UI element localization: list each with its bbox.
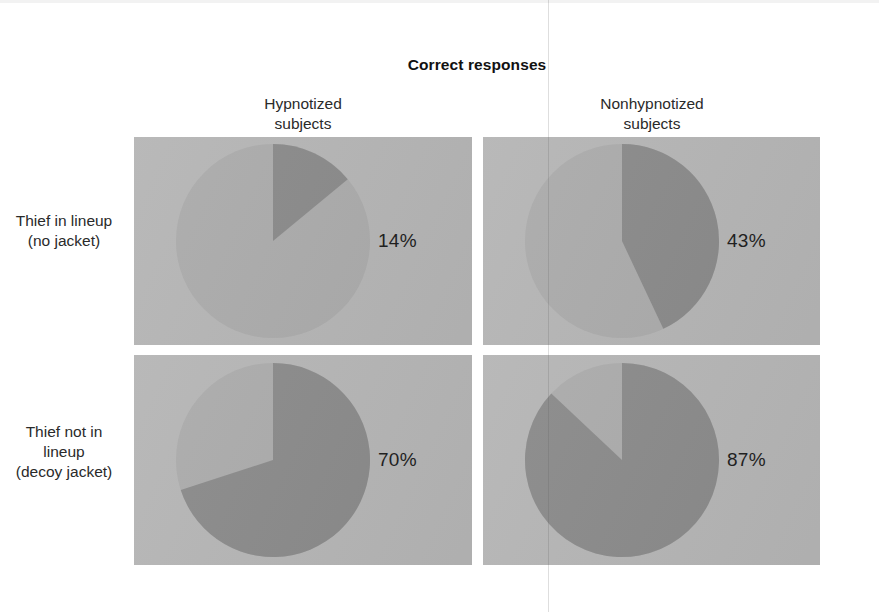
row-label-line1: Thief not in xyxy=(0,422,128,442)
pie-svg xyxy=(523,361,721,559)
row-label-thief-not-in-lineup: Thief not in lineup (decoy jacket) xyxy=(0,422,128,482)
pie-svg xyxy=(523,142,721,340)
column-header-line1: Hypnotized xyxy=(134,94,472,114)
pie-panel-hypnotized-thief-in-lineup: 14% xyxy=(134,137,472,345)
figure-canvas: Correct responses Hypnotized subjects No… xyxy=(0,0,879,612)
row-label-thief-in-lineup: Thief in lineup (no jacket) xyxy=(0,211,128,251)
pie-panel-nonhypnotized-thief-not-in-lineup: 87% xyxy=(483,355,820,565)
percent-label: 70% xyxy=(378,449,464,471)
row-label-line1: Thief in lineup xyxy=(0,211,128,231)
column-header-line2: subjects xyxy=(134,114,472,134)
percent-label: 14% xyxy=(378,230,464,252)
row-label-line3: (decoy jacket) xyxy=(0,462,128,482)
pie-chart xyxy=(523,361,721,559)
row-label-line2: (no jacket) xyxy=(0,231,128,251)
scan-artifact-edge xyxy=(0,0,879,3)
page-title: Correct responses xyxy=(134,56,820,74)
pie-panel-hypnotized-thief-not-in-lineup: 70% xyxy=(134,355,472,565)
row-label-line2: lineup xyxy=(0,442,128,462)
pie-svg xyxy=(174,361,372,559)
percent-label: 43% xyxy=(727,230,813,252)
pie-chart xyxy=(174,142,372,340)
pie-chart xyxy=(523,142,721,340)
pie-chart xyxy=(174,361,372,559)
percent-label: 87% xyxy=(727,449,813,471)
pie-svg xyxy=(174,142,372,340)
column-header-line1: Nonhypnotized xyxy=(483,94,821,114)
column-header-nonhypnotized: Nonhypnotized subjects xyxy=(483,94,821,134)
pie-panel-nonhypnotized-thief-in-lineup: 43% xyxy=(483,137,820,345)
column-header-line2: subjects xyxy=(483,114,821,134)
column-header-hypnotized: Hypnotized subjects xyxy=(134,94,472,134)
